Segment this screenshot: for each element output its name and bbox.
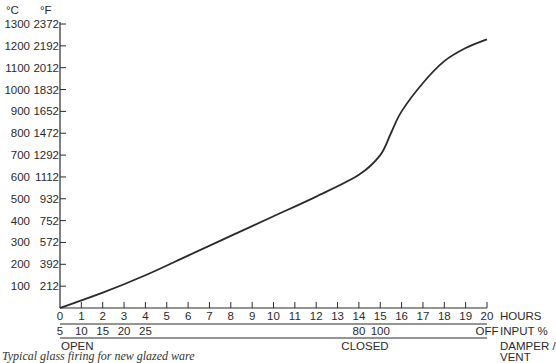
input-value-label: 80 (352, 325, 365, 337)
y-tick-label-fahrenheit: 392 (28, 258, 59, 270)
y-tick-label-fahrenheit: 1472 (28, 127, 59, 139)
x-tick-label: 3 (121, 310, 127, 322)
x-tick-label: 19 (459, 310, 472, 322)
input-value-label: 5 (57, 325, 63, 337)
damper-closed-label: CLOSED (341, 340, 388, 352)
hours-axis-label: HOURS (500, 310, 542, 322)
y-tick-label-fahrenheit: 2192 (28, 40, 59, 52)
x-tick-label: 0 (57, 310, 63, 322)
y-tick-label-celsius: 800 (0, 127, 30, 139)
x-ticks (81, 302, 487, 308)
figure-caption: Typical glass firing for new glazed ware (2, 349, 195, 363)
y-tick-label-fahrenheit: 572 (28, 236, 59, 248)
x-tick-label: 4 (142, 310, 148, 322)
x-tick-label: 18 (438, 310, 451, 322)
y-tick-label-fahrenheit: 932 (28, 193, 59, 205)
input-value-label: 15 (96, 325, 109, 337)
x-tick-label: 20 (481, 310, 494, 322)
input-value-label: OFF (476, 325, 499, 337)
x-tick-label: 14 (352, 310, 365, 322)
y-tick-label-celsius: 300 (0, 236, 30, 248)
x-tick-label: 7 (206, 310, 212, 322)
x-tick-label: 9 (249, 310, 255, 322)
y-tick-label-celsius: 400 (0, 215, 30, 227)
y-tick-label-celsius: 1100 (0, 62, 30, 74)
firing-curve (60, 39, 487, 308)
damper-row-label-2: VENT (500, 351, 531, 363)
y-tick-label-celsius: 700 (0, 149, 30, 161)
y-tick-label-celsius: 1300 (0, 18, 30, 30)
y-tick-label-fahrenheit: 1292 (28, 149, 59, 161)
y-tick-label-fahrenheit: 212 (28, 280, 59, 292)
input-value-label: 10 (75, 325, 88, 337)
x-tick-label: 15 (374, 310, 387, 322)
y-tick-label-fahrenheit: 2372 (28, 18, 59, 30)
x-tick-label: 6 (185, 310, 191, 322)
y-tick-label-fahrenheit: 2012 (28, 62, 59, 74)
fahrenheit-unit-label: °F (40, 4, 52, 16)
input-value-label: 20 (118, 325, 131, 337)
x-tick-label: 8 (228, 310, 234, 322)
x-tick-label: 12 (310, 310, 323, 322)
y-tick-label-fahrenheit: 752 (28, 215, 59, 227)
celsius-unit-label: °C (6, 4, 19, 16)
y-tick-label-celsius: 100 (0, 280, 30, 292)
input-value-label: 25 (139, 325, 152, 337)
x-tick-label: 17 (417, 310, 430, 322)
y-tick-label-celsius: 600 (0, 171, 30, 183)
y-ticks (60, 24, 66, 286)
y-tick-label-celsius: 200 (0, 258, 30, 270)
y-tick-label-fahrenheit: 1112 (28, 171, 59, 183)
y-tick-label-fahrenheit: 1652 (28, 105, 59, 117)
input-value-label: 100 (371, 325, 390, 337)
y-tick-label-celsius: 1200 (0, 40, 30, 52)
y-tick-label-celsius: 900 (0, 105, 30, 117)
y-tick-label-fahrenheit: 1832 (28, 84, 59, 96)
x-tick-label: 1 (78, 310, 84, 322)
x-tick-label: 2 (99, 310, 105, 322)
x-tick-label: 5 (164, 310, 170, 322)
x-tick-label: 13 (331, 310, 344, 322)
x-tick-label: 10 (267, 310, 280, 322)
y-tick-label-celsius: 500 (0, 193, 30, 205)
x-tick-label: 16 (395, 310, 408, 322)
input-row-label: INPUT % (500, 325, 548, 337)
x-tick-label: 11 (289, 310, 301, 322)
y-tick-label-celsius: 1000 (0, 84, 30, 96)
